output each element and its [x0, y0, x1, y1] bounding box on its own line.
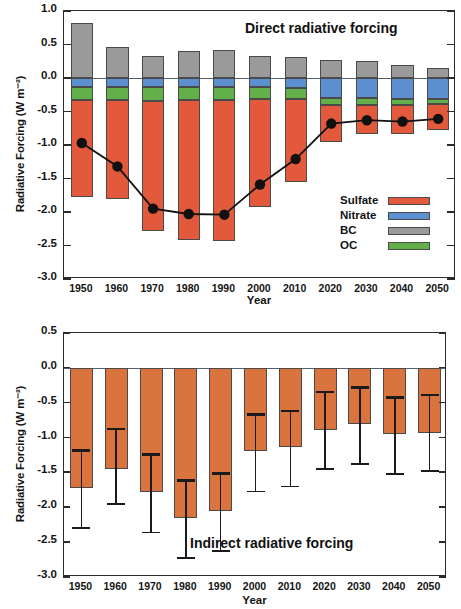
legend-swatch-bc	[388, 227, 430, 235]
direct-x-tick-label: 1980	[168, 282, 208, 294]
indirect-error-cap-upper	[142, 453, 160, 456]
indirect-error-bar	[255, 413, 257, 490]
indirect-error-cap-upper	[247, 413, 265, 416]
indirect-y-tick-mark	[63, 402, 70, 404]
legend-label-oc: OC	[340, 239, 357, 251]
indirect-y-tick-label: -3.0	[10, 568, 57, 580]
indirect-error-cap-upper	[351, 386, 369, 389]
indirect-error-cap-upper	[72, 449, 90, 452]
indirect-y-tick-label: 0.0	[10, 359, 57, 371]
indirect-y-tick-mark	[63, 367, 70, 369]
indirect-error-cap-lower	[247, 491, 265, 493]
indirect-error-bar	[115, 428, 117, 503]
legend-swatch-oc	[388, 242, 430, 250]
direct-y-tick-mark	[63, 178, 71, 180]
direct-y-tick-label: -2.0	[10, 203, 57, 215]
direct-y-tick-mark-right	[447, 77, 455, 79]
indirect-panel-title: Indirect radiative forcing	[190, 535, 353, 551]
indirect-error-cap-lower	[107, 503, 125, 505]
direct-y-tick-label: -1.5	[10, 170, 57, 182]
legend-label-nitrate: Nitrate	[340, 209, 376, 221]
direct-net-forcing-marker	[397, 116, 407, 126]
indirect-error-cap-lower	[386, 473, 404, 475]
indirect-error-cap-lower	[177, 557, 195, 559]
direct-y-tick-mark-right	[447, 278, 455, 280]
indirect-error-cap-upper	[107, 428, 125, 431]
indirect-y-tick-mark-right	[439, 402, 446, 404]
direct-net-forcing-marker	[148, 203, 158, 213]
direct-y-tick-mark-right	[447, 44, 455, 46]
direct-y-tick-mark	[63, 44, 71, 46]
legend-label-bc: BC	[340, 224, 357, 236]
direct-y-tick-mark-right	[447, 144, 455, 146]
indirect-y-tick-label: -2.5	[10, 533, 57, 545]
indirect-x-axis-title: Year	[63, 594, 446, 606]
direct-y-tick-mark	[63, 144, 71, 146]
indirect-forcing-panel: Radiative Forcing (W m⁻²) Year 0.50.0-0.…	[0, 310, 461, 609]
direct-panel-title: Direct radiative forcing	[245, 20, 398, 36]
indirect-y-tick-label: -0.5	[10, 394, 57, 406]
direct-x-tick-label: 2000	[239, 282, 279, 294]
radiative-forcing-figure: Radiative Forcing (W m⁻²) Year 1.00.50.0…	[0, 0, 461, 609]
direct-x-tick-label: 2030	[346, 282, 386, 294]
indirect-y-tick-mark	[63, 576, 70, 578]
direct-y-tick-mark-right	[447, 211, 455, 213]
indirect-error-bar	[81, 449, 83, 526]
indirect-error-cap-upper	[212, 472, 230, 475]
direct-y-tick-label: -1.0	[10, 136, 57, 148]
indirect-y-tick-mark	[63, 437, 70, 439]
indirect-error-bar	[359, 386, 361, 463]
indirect-y-tick-mark-right	[439, 437, 446, 439]
direct-net-forcing-marker	[112, 161, 122, 171]
indirect-error-cap-lower	[142, 532, 160, 534]
indirect-error-cap-lower	[351, 463, 369, 465]
indirect-y-tick-label: -1.0	[10, 429, 57, 441]
direct-y-tick-mark	[63, 77, 71, 79]
indirect-y-tick-mark	[63, 506, 70, 508]
direct-y-tick-label: 0.5	[10, 36, 57, 48]
indirect-y-tick-mark-right	[439, 332, 446, 334]
direct-plot-area	[63, 10, 455, 278]
direct-y-tick-mark-right	[447, 178, 455, 180]
direct-x-tick-label: 1990	[203, 282, 243, 294]
direct-net-forcing-marker	[362, 115, 372, 125]
indirect-error-bar	[324, 391, 326, 468]
direct-x-tick-label: 1970	[132, 282, 172, 294]
direct-y-tick-label: -3.0	[10, 270, 57, 282]
indirect-y-tick-mark	[63, 332, 70, 334]
direct-y-tick-label: -0.5	[10, 103, 57, 115]
direct-y-tick-mark-right	[447, 245, 455, 247]
indirect-error-cap-lower	[316, 468, 334, 470]
indirect-y-tick-mark-right	[439, 506, 446, 508]
indirect-y-tick-mark	[63, 471, 70, 473]
direct-net-forcing-marker	[326, 118, 336, 128]
direct-x-axis-title: Year	[63, 294, 455, 306]
direct-net-forcing-marker	[433, 114, 443, 124]
direct-y-tick-label: 1.0	[10, 2, 57, 14]
direct-x-tick-label: 2010	[275, 282, 315, 294]
indirect-error-cap-upper	[177, 479, 195, 482]
direct-net-forcing-line	[64, 11, 455, 278]
indirect-y-tick-mark	[63, 541, 70, 543]
direct-net-forcing-marker	[219, 209, 229, 219]
indirect-error-cap-upper	[316, 391, 334, 394]
direct-net-forcing-marker	[77, 138, 87, 148]
legend-label-sulfate: Sulfate	[340, 194, 378, 206]
direct-y-tick-mark	[63, 10, 71, 12]
indirect-error-cap-lower	[421, 470, 439, 472]
indirect-error-cap-upper	[421, 394, 439, 397]
indirect-error-cap-lower	[281, 486, 299, 488]
direct-x-tick-label: 1960	[96, 282, 136, 294]
direct-net-forcing-marker	[184, 209, 194, 219]
direct-net-forcing-marker	[255, 179, 265, 189]
indirect-error-cap-lower	[72, 527, 90, 529]
indirect-y-tick-label: -2.0	[10, 498, 57, 510]
direct-y-tick-mark	[63, 278, 71, 280]
direct-y-tick-label: 0.0	[10, 69, 57, 81]
indirect-error-bar	[290, 410, 292, 486]
direct-x-tick-label: 2040	[382, 282, 422, 294]
indirect-error-bar	[394, 396, 396, 473]
indirect-y-tick-label: 0.5	[10, 324, 57, 336]
indirect-y-tick-label: -1.5	[10, 463, 57, 475]
indirect-y-tick-mark-right	[439, 576, 446, 578]
